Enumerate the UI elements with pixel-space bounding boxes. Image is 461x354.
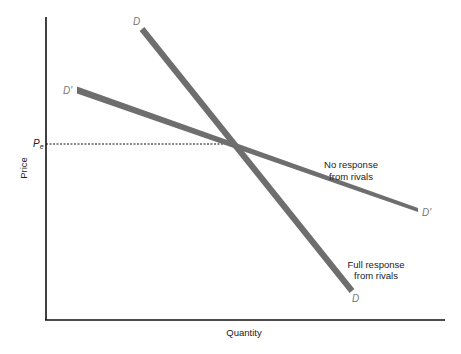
demand-curve-d-prime bbox=[77, 87, 418, 213]
no-response-annotation-line1: No response bbox=[324, 159, 378, 170]
y-axis-title: Price bbox=[18, 157, 29, 179]
full-response-annotation-line1: Full response bbox=[347, 259, 404, 270]
kinked-demand-chart: D D D' D' Pe No response from rivals Ful… bbox=[0, 0, 461, 354]
d-prime-left-label: D' bbox=[63, 85, 73, 96]
d-bottom-label: D bbox=[352, 293, 359, 304]
d-prime-right-label: D' bbox=[422, 207, 432, 218]
pe-label: Pe bbox=[33, 138, 44, 150]
no-response-annotation-line2: from rivals bbox=[329, 171, 373, 182]
demand-curve-d bbox=[142, 29, 352, 291]
full-response-annotation-line2: from rivals bbox=[354, 270, 398, 281]
x-axis-title: Quantity bbox=[226, 327, 262, 338]
d-top-label: D bbox=[133, 16, 140, 27]
